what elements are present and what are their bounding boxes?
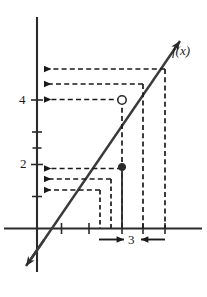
- upper-drop-lines: [122, 69, 165, 228]
- x-span-measure-label: 3: [128, 233, 135, 246]
- function-line-fx: [26, 41, 180, 266]
- fx-line-arrow-lower: [26, 240, 44, 266]
- function-curve-label: f(x): [172, 44, 190, 57]
- filled-dot-marker: [118, 163, 125, 170]
- y-axis-tick-label-2: 2: [20, 157, 27, 170]
- fx-line-segment: [31, 41, 180, 259]
- open-circle-marker: [118, 96, 126, 104]
- upper-projection-arrows: [44, 69, 165, 100]
- lower-drop-lines: [100, 179, 111, 228]
- graph-figure: 4 2 3 f(x): [0, 0, 207, 297]
- y-axis-tick-label-4: 4: [19, 93, 26, 106]
